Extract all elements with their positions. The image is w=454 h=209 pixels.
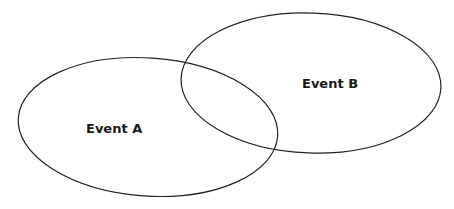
event-a-label: Event A bbox=[86, 121, 142, 136]
event-b-label: Event B bbox=[302, 76, 358, 91]
venn-diagram: Event A Event B bbox=[0, 0, 454, 209]
event-a-ellipse bbox=[14, 49, 283, 205]
